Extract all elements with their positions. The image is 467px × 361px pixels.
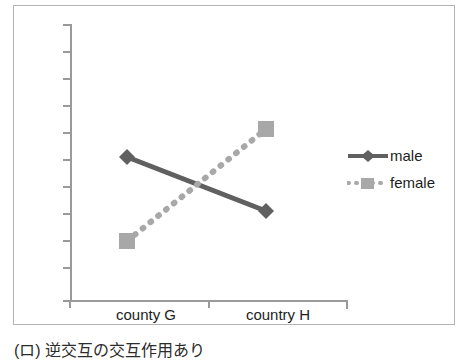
diamond-marker (119, 149, 135, 165)
x-axis-category-label: country H (210, 306, 346, 323)
diamond-marker (258, 203, 274, 219)
square-marker (361, 178, 374, 189)
legend-item-female[interactable]: female (347, 169, 457, 196)
series-female-line (127, 129, 266, 241)
legend-label-male: male (390, 147, 423, 164)
legend-swatch-female (347, 175, 389, 191)
x-axis-category-label: county G (83, 306, 209, 323)
square-marker (119, 233, 135, 249)
figure-caption: (ロ) 逆交互の交互作用あり (14, 341, 454, 361)
legend-item-male[interactable]: male (347, 142, 457, 169)
legend-swatch-male (347, 148, 389, 164)
square-marker (258, 121, 274, 137)
chart-frame: county G country H male female (13, 5, 455, 325)
series-female (119, 121, 274, 249)
legend-label-female: female (390, 174, 435, 191)
chart-legend: male female (347, 142, 457, 196)
diamond-marker (361, 150, 375, 162)
